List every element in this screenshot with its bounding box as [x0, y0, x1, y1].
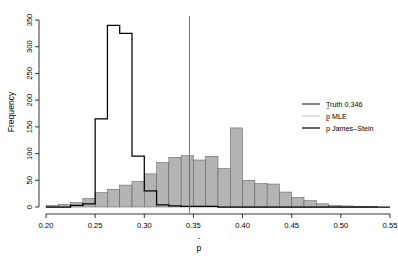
histogram-bar	[132, 181, 144, 207]
x-axis-tick-label: 0.45	[284, 221, 299, 230]
x-axis-tick-label: 0.25	[88, 221, 103, 230]
histogram-chart: 0.200.250.300.350.400.450.500.55 0501001…	[0, 0, 398, 265]
histogram-bar	[230, 128, 242, 207]
y-axis-tick-label: 300	[25, 40, 34, 53]
y-axis-tick-label: 350	[25, 14, 34, 27]
histogram-bar	[157, 163, 169, 207]
x-axis-tick-label: 0.35	[186, 221, 201, 230]
y-axis-tick-label: 50	[25, 176, 34, 184]
histogram-bar	[279, 192, 291, 207]
histogram-bar	[304, 201, 316, 207]
histogram-bar	[181, 156, 193, 207]
histogram-bar	[255, 183, 267, 207]
histogram-bar	[107, 189, 119, 207]
x-axis-tick-label: 0.20	[39, 221, 54, 230]
y-axis-tick-label: 200	[25, 94, 34, 107]
histogram-bar	[267, 184, 279, 207]
histogram-bar	[95, 193, 107, 207]
histogram-bar	[206, 156, 218, 207]
x-axis-tick-label: 0.55	[383, 221, 398, 230]
histogram-bar	[193, 160, 205, 207]
histogram-bar	[83, 198, 95, 207]
histogram-bar	[218, 169, 230, 207]
histogram-bar	[120, 185, 132, 207]
histogram-bar	[169, 157, 181, 207]
legend-js-label: p James–Stein	[326, 124, 374, 133]
y-axis-title: Frequency	[6, 91, 16, 132]
legend-truth-label: Truth 0.346	[326, 100, 363, 109]
x-axis-tick-label: 0.30	[137, 221, 152, 230]
histogram-bar	[292, 197, 304, 207]
y-axis-tick-label: 100	[25, 147, 34, 160]
x-axis-tick-label: 0.40	[235, 221, 250, 230]
y-axis-tick-label: 0	[25, 205, 34, 209]
x-axis-tick-label: 0.50	[333, 221, 348, 230]
y-axis-tick-label: 150	[25, 121, 34, 134]
histogram-bar	[243, 180, 255, 207]
chart-root: 0.200.250.300.350.400.450.500.55 0501001…	[0, 0, 398, 265]
y-axis-tick-label: 250	[25, 67, 34, 80]
